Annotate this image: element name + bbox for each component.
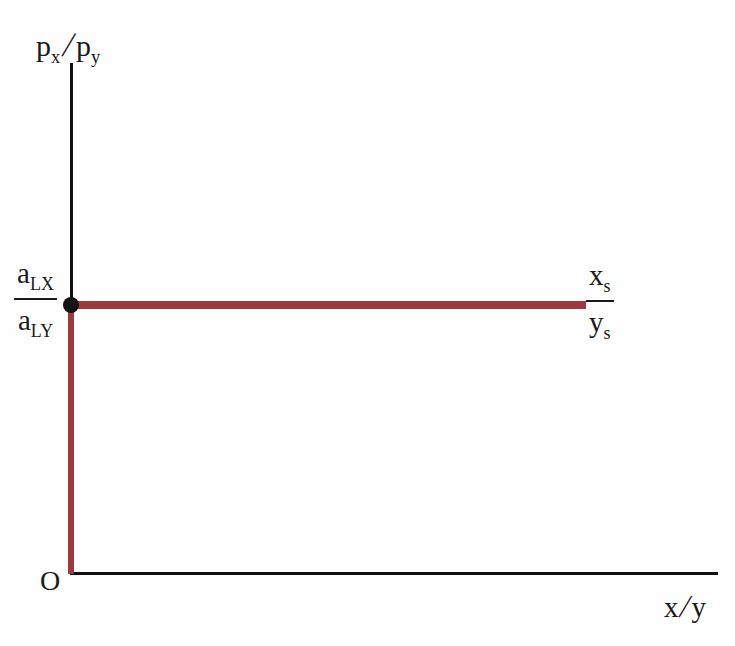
supply-fraction-bar xyxy=(586,300,614,302)
intercept-numerator-sub: LX xyxy=(30,274,54,294)
origin-label: O xyxy=(40,567,60,595)
intercept-denominator-base: a xyxy=(18,304,31,336)
supply-numerator-sub: s xyxy=(604,276,611,296)
x-axis-label: x/y xyxy=(664,590,706,622)
y-axis-label: px/py xyxy=(36,28,100,67)
supply-numerator-base: x xyxy=(589,259,604,291)
supply-numerator: xs xyxy=(586,258,614,297)
x-axis-line xyxy=(70,572,718,575)
chart-canvas: px/py x/y O aLX aLY xs ys xyxy=(0,0,735,646)
supply-curve-vertical-segment xyxy=(68,303,74,574)
supply-denominator: ys xyxy=(586,305,614,344)
intercept-denominator-sub: LY xyxy=(31,321,54,341)
intercept-numerator: aLX xyxy=(14,256,57,295)
kink-point-marker xyxy=(63,297,79,313)
intercept-denominator: aLY xyxy=(14,303,57,342)
supply-curve-value-label: xs ys xyxy=(586,258,614,344)
supply-denominator-base: y xyxy=(589,306,604,338)
intercept-numerator-base: a xyxy=(17,257,30,289)
supply-denominator-sub: s xyxy=(604,323,611,343)
y-axis-label-denominator-sub: y xyxy=(91,46,101,67)
intercept-fraction-bar xyxy=(14,298,57,300)
y-intercept-value-label: aLX aLY xyxy=(14,256,57,342)
supply-curve-horizontal-segment xyxy=(68,301,586,309)
y-axis-label-numerator-base: p xyxy=(36,29,51,62)
